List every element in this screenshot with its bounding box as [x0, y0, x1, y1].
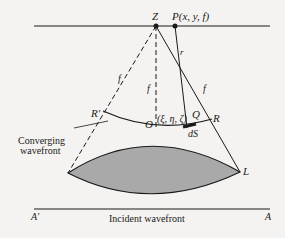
label-r: R — [212, 112, 220, 124]
label-p: P(x, y, f) — [171, 10, 210, 23]
label-f-right: f — [203, 83, 207, 94]
lens — [68, 146, 240, 194]
label-z: Z — [152, 10, 159, 22]
leader-line — [74, 121, 108, 128]
label-ds: dS — [188, 128, 198, 139]
focusing-diagram: Z P(x, y, f) f f f r R′ R O (ξ, η, ζ) Q … — [0, 0, 285, 238]
label-r-prime: R′ — [90, 107, 101, 119]
label-o: O — [145, 118, 153, 130]
label-l: L — [242, 165, 249, 177]
label-a: A — [264, 211, 272, 222]
label-r: r — [180, 47, 184, 57]
label-f-left: f — [118, 73, 122, 84]
label-wavefront: wavefront — [20, 145, 61, 156]
label-q: Q — [192, 108, 200, 120]
label-f-center: f — [147, 83, 151, 94]
label-a-prime: A′ — [30, 211, 40, 222]
label-xi: (ξ, η, ζ) — [157, 113, 188, 125]
label-incident: Incident wavefront — [109, 213, 185, 224]
